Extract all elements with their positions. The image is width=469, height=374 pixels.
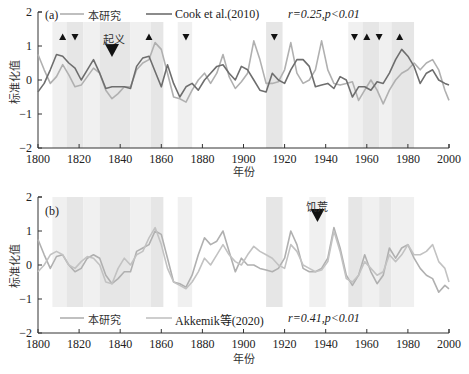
shaded-period [67,197,83,307]
y-tick-label: −1 [19,107,32,121]
shaded-period [391,22,414,148]
x-tick-label: 1800 [26,337,50,351]
panel-b-event-label: 饥荒 [306,198,328,214]
y-tick-label: 0 [26,73,32,87]
x-tick-label: 1900 [232,337,256,351]
x-tick-label: 1800 [26,152,50,166]
shaded-period [151,197,163,307]
panel-a-legend-cook: Cook et al.(2010) [175,7,259,22]
shaded-period [130,22,151,148]
panel-a-stat: r=0.25,p<0.01 [288,7,360,22]
panel-b-stat: r=0.41,p<0.01 [288,311,360,326]
shaded-period [266,197,282,307]
shaded-period [363,197,379,307]
y-tick-label: 1 [26,224,32,238]
x-tick-label: 1960 [355,337,379,351]
x-tick-label: 1980 [396,337,420,351]
y-tick-label: 2 [26,190,32,204]
shaded-period [178,197,192,307]
x-tick-label: 1840 [108,152,132,166]
panel-b-legend-study: 本研究 [88,311,121,327]
panel-a-legend-study: 本研究 [88,7,121,23]
panel-b-legend-akkemik: Akkemik等(2020) [175,311,264,329]
panel-a-label: (a) [45,8,58,23]
shaded-period [52,22,66,148]
x-tick-label: 1980 [396,152,420,166]
x-tick-label: 1860 [149,337,173,351]
shaded-period [83,22,99,148]
x-tick-label: 1860 [149,152,173,166]
panel-a-xlabel: 年份 [233,163,255,179]
shaded-period [83,197,99,307]
y-tick-label: 2 [26,5,32,19]
x-tick-label: 1880 [190,337,214,351]
y-tick-label: −1 [19,292,32,306]
panel-a-ylabel: 标准化值 [6,60,22,104]
x-tick-label: 1820 [67,337,91,351]
shaded-period [348,197,362,307]
shaded-period [363,22,379,148]
y-tick-label: 1 [26,39,32,53]
x-tick-label: 1940 [314,337,338,351]
panel-b-ylabel: 标准化值 [6,244,22,288]
shaded-period [379,22,391,148]
panel-a: −2−1012180018201840186018801900192019401… [19,5,461,166]
x-tick-label: 1880 [190,152,214,166]
shaded-period [100,197,131,307]
panel-a-event-label: 起义 [103,31,125,47]
x-tick-label: 1920 [273,337,297,351]
x-tick-label: 1820 [67,152,91,166]
y-tick-label: 0 [26,258,32,272]
x-tick-label: 1960 [355,152,379,166]
panel-b-label: (b) [45,204,59,219]
shaded-period [348,22,362,148]
panel-b-xlabel: 年份 [233,350,255,366]
x-tick-label: 2000 [437,337,461,351]
x-tick-label: 1920 [273,152,297,166]
x-tick-label: 2000 [437,152,461,166]
x-tick-label: 1840 [108,337,132,351]
x-tick-label: 1940 [314,152,338,166]
shaded-period [379,197,391,307]
